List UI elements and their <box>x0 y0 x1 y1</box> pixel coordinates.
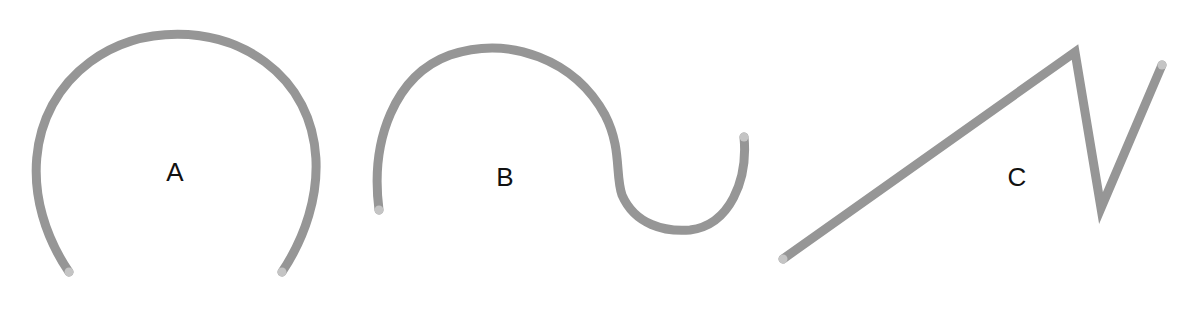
shape-c-endpoint-left <box>779 255 788 264</box>
shape-b-wire <box>377 48 744 230</box>
label-a: A <box>166 159 183 185</box>
shape-a <box>36 34 316 276</box>
shape-b <box>375 48 749 230</box>
shape-a-wire <box>36 34 316 272</box>
shape-a-endpoint-right <box>278 268 287 277</box>
label-c: C <box>1008 164 1027 190</box>
shape-a-endpoint-left <box>65 268 74 277</box>
shape-b-endpoint-left <box>375 206 384 215</box>
shape-c-endpoint-right <box>1158 61 1167 70</box>
shape-c-wire <box>783 52 1162 259</box>
shape-b-endpoint-right <box>740 133 749 142</box>
label-b: B <box>496 164 513 190</box>
shape-c <box>779 52 1167 264</box>
